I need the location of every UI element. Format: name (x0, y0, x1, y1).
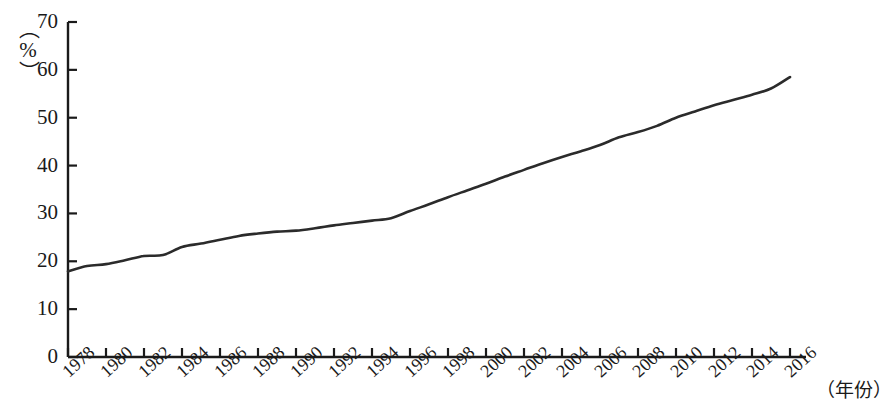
y-axis-tick-label: 60 (16, 59, 58, 80)
y-axis-tick-label: 50 (16, 107, 58, 128)
y-axis-tick-label: 10 (16, 298, 58, 319)
x-axis-title: （年份） (816, 381, 884, 400)
y-axis-tick-label: 20 (16, 250, 58, 271)
y-axis-tick-label: 30 (16, 202, 58, 223)
axis-lines (68, 22, 806, 357)
y-axis-ticks (68, 22, 77, 357)
y-axis-tick-label: 0 (16, 346, 58, 367)
y-axis-tick-label: 70 (16, 11, 58, 32)
data-series-line (68, 77, 790, 271)
y-axis-tick-label: 40 (16, 155, 58, 176)
